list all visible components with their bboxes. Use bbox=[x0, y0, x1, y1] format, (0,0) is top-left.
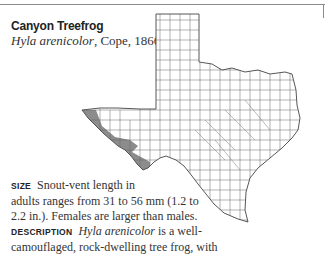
description-word-a: a bbox=[169, 224, 174, 238]
size-text-1: Snout-vent length in bbox=[37, 178, 135, 192]
size-line-3: 2.2 in.). Females are larger than males. bbox=[11, 209, 206, 224]
size-line-2: adults ranges from 31 to 56 mm (1.2 to bbox=[11, 194, 206, 209]
description-word-is: is bbox=[158, 224, 166, 238]
species-text: SIZE Snout-vent length in adults ranges … bbox=[11, 178, 206, 255]
size-label: SIZE bbox=[11, 181, 31, 191]
size-line-1: SIZE Snout-vent length in bbox=[11, 178, 206, 194]
top-rule bbox=[0, 4, 325, 5]
description-word-well: well- bbox=[177, 224, 202, 238]
description-line-2: camouflaged, rock-dwelling tree frog, wi… bbox=[11, 240, 206, 255]
description-line-1: DESCRIPTION Hyla arenicolor is a well- bbox=[11, 224, 209, 240]
description-species: Hyla arenicolor bbox=[78, 224, 155, 238]
description-label: DESCRIPTION bbox=[11, 227, 72, 237]
